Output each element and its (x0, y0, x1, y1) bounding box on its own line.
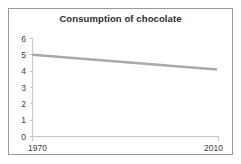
series-line-consumption (33, 55, 218, 70)
y-axis-label-1: 1 (21, 115, 26, 125)
y-axis-label-4: 4 (21, 66, 26, 76)
x-axis-label-left: 1970 (28, 143, 47, 153)
y-axis-label-0: 0 (21, 132, 26, 142)
x-axis-label-right: 2010 (204, 143, 223, 153)
y-axis-label-6: 6 (21, 34, 26, 44)
y-axis-label-5: 5 (21, 50, 26, 60)
chart-frame: Consumption of chocolate 6 5 4 3 2 1 0 1… (8, 8, 233, 155)
line-chart-plot: 6 5 4 3 2 1 0 1970 2010 (9, 9, 234, 156)
y-axis-label-3: 3 (21, 83, 26, 93)
y-axis-label-2: 2 (21, 99, 26, 109)
